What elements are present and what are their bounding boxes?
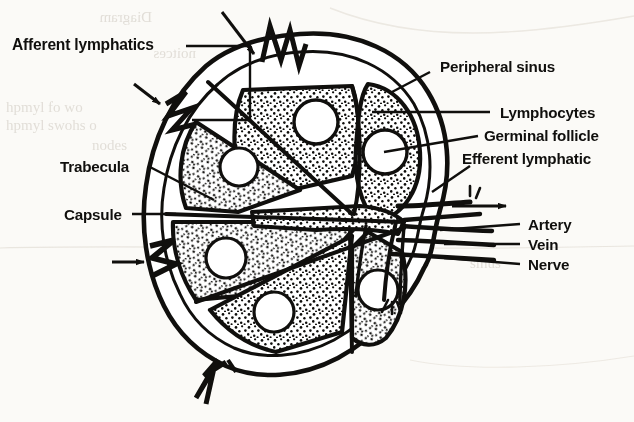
label-trabecula: Trabecula xyxy=(60,158,130,175)
afferent-flow-arrow-upper-left xyxy=(134,84,160,104)
ghost-text: Diagram xyxy=(99,9,152,25)
label-vein: Vein xyxy=(528,236,558,253)
label-germinal-follicle: Germinal follicle xyxy=(484,127,599,144)
ghost-text: nodes xyxy=(92,137,127,153)
vessel-branch-tuft xyxy=(470,186,480,198)
label-artery: Artery xyxy=(528,216,572,233)
label-efferent-lymphatic: Efferent lymphatic xyxy=(462,150,591,167)
lymph-node-diagram: Diagram noitces hpmyl fo wo hpmyl swohs … xyxy=(0,0,634,422)
ghost-curve xyxy=(410,356,634,367)
ghost-curve xyxy=(330,8,634,33)
label-lymphocytes: Lymphocytes xyxy=(500,104,595,121)
afferent-vessel-bottom xyxy=(196,360,226,404)
germinal-follicle xyxy=(294,100,338,144)
label-peripheral-sinus: Peripheral sinus xyxy=(440,58,555,75)
ghost-text: noitces xyxy=(153,45,196,61)
ghost-text: hpmyl swohs o xyxy=(6,117,97,133)
label-afferent-lymphatics: Afferent lymphatics xyxy=(12,36,154,53)
germinal-follicle xyxy=(206,238,246,278)
ghost-text: hpmyl fo wo xyxy=(6,99,83,115)
lymph-node-figure: Diagram noitces hpmyl fo wo hpmyl swohs … xyxy=(0,0,634,422)
label-nerve: Nerve xyxy=(528,256,569,273)
germinal-follicle xyxy=(220,148,258,186)
germinal-follicle xyxy=(254,292,294,332)
trabecula-septum xyxy=(350,232,352,352)
label-capsule: Capsule xyxy=(64,206,122,223)
lobule-bottom-right xyxy=(352,232,405,345)
